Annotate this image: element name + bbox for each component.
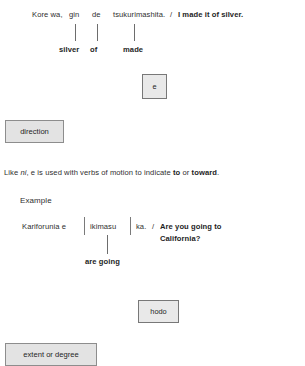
example-two-segment-kariforunia-e: Kariforunia e [22,222,66,231]
gloss-label-of: of [90,45,97,54]
gloss-tick-gin [75,24,76,41]
example-two-separator: / [152,222,154,231]
particle-box-hodo: hodo [138,300,179,323]
explanation-bold-toward: toward [192,168,217,177]
gloss-label-are-going: are going [85,257,120,266]
explanation-prefix: Like [4,168,20,177]
example-one-segment-gin: gin [69,10,79,19]
example-two-translation-line-one: Are you going to [160,222,222,231]
explanation-suffix: , e is used with verbs of motion to indi… [26,168,173,177]
particle-box-e: e [142,74,167,99]
example-two-segment-ka: ka. [136,222,146,231]
highlight-rule-left [84,217,85,235]
example-one-segment-kore-wa: Kore wa, [32,10,63,19]
gloss-tick-ikimasu [107,235,108,254]
gloss-label-silver: silver [59,45,79,54]
gloss-label-made: made [123,45,143,54]
example-two-segment-ikimasu: ikimasu [90,222,116,231]
example-one-segment-de: de [92,10,101,19]
particle-symbol-hodo: hodo [150,307,166,316]
particle-e-explanation: Like ni, e is used with verbs of motion … [4,168,301,177]
example-two-translation-line-two: California? [160,234,201,243]
particle-symbol-e: e [152,82,156,91]
definition-box-extent-or-degree: extent or degree [5,343,97,366]
gloss-tick-tsukurimashita [134,24,135,41]
gloss-tick-de [97,24,98,41]
example-heading: Example [20,196,52,205]
explanation-middle: or [180,168,191,177]
definition-label-direction: direction [20,127,49,136]
definition-label-extent-or-degree: extent or degree [23,350,78,359]
explanation-end: . [217,168,219,177]
example-one-segment-tsukurimashita: tsukurimashita. [113,10,165,19]
example-one-separator: / [170,10,172,19]
example-one-translation: I made it of silver. [178,10,243,19]
definition-box-direction: direction [5,120,64,143]
highlight-rule-right [130,217,131,235]
